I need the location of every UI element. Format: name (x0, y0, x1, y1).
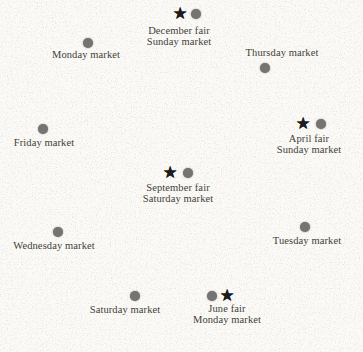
april-fair-label-line: April fair (277, 134, 342, 145)
friday-market-label: Friday market (14, 138, 75, 149)
saturday-market-label: Saturday market (90, 305, 161, 316)
june-fair-label-line: Monday market (193, 315, 261, 326)
marker-layer: ★December fairSunday marketMonday market… (0, 0, 363, 352)
december-fair-label-line: December fair (147, 26, 212, 37)
thursday-market-dot-icon (260, 63, 270, 73)
september-fair-label-line: Saturday market (143, 194, 214, 205)
monday-market-label: Monday market (52, 50, 120, 61)
april-fair-label-line: Sunday market (277, 145, 342, 156)
september-fair-fair-star-icon: ★ (162, 164, 177, 181)
december-fair-dot-icon (191, 9, 201, 19)
june-fair-label: June fairMonday market (193, 304, 261, 325)
december-fair-label: December fairSunday market (147, 26, 212, 47)
september-fair-label-line: September fair (143, 183, 214, 194)
wednesday-market-label: Wednesday market (13, 241, 95, 252)
september-fair-label: September fairSaturday market (143, 183, 214, 204)
december-fair-fair-star-icon: ★ (172, 5, 187, 22)
wednesday-market-dot-icon (53, 227, 63, 237)
june-fair-fair-star-icon: ★ (219, 287, 234, 304)
thursday-market-label-line: Thursday market (246, 48, 319, 59)
tuesday-market-dot-icon (300, 222, 310, 232)
april-fair-fair-star-icon: ★ (295, 115, 310, 132)
june-fair-dot-icon (207, 291, 217, 301)
september-fair-dot-icon (183, 168, 193, 178)
saturday-market-label-line: Saturday market (90, 305, 161, 316)
wednesday-market-label-line: Wednesday market (13, 241, 95, 252)
june-fair-label-line: June fair (193, 304, 261, 315)
april-fair-dot-icon (316, 119, 326, 129)
thursday-market-label: Thursday market (246, 48, 319, 59)
tuesday-market-label: Tuesday market (273, 236, 341, 247)
tuesday-market-label-line: Tuesday market (273, 236, 341, 247)
april-fair-label: April fairSunday market (277, 134, 342, 155)
friday-market-dot-icon (38, 124, 48, 134)
december-fair-label-line: Sunday market (147, 37, 212, 48)
saturday-market-dot-icon (130, 291, 140, 301)
monday-market-label-line: Monday market (52, 50, 120, 61)
monday-market-dot-icon (83, 38, 93, 48)
markets-and-fairs-map: ★December fairSunday marketMonday market… (0, 0, 363, 352)
friday-market-label-line: Friday market (14, 138, 75, 149)
